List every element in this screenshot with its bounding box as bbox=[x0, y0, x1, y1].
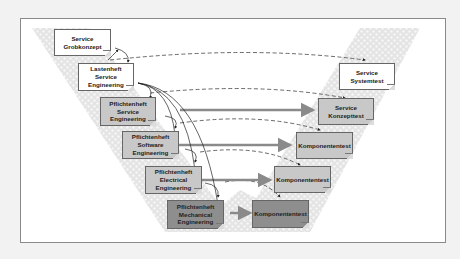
box-komponententest-mechanical: Komponententest bbox=[252, 200, 309, 228]
box-service-systemtest: ServiceSystemtest bbox=[339, 63, 395, 90]
box-komponententest-software: Komponententest bbox=[296, 132, 353, 159]
box-pflichtenheft-software-engineering: PflichtenheftSoftwareEngineering bbox=[122, 131, 179, 159]
box-komponententest-electrical: Komponententest bbox=[274, 166, 331, 193]
box-pflichtenheft-mechanical-engineering: PflichtenheftMechanicalEngineering bbox=[167, 200, 224, 229]
box-service-konzepttest: ServiceKonzepttest bbox=[318, 98, 374, 125]
box-lastenheft-service-engineering: LastenheftServiceEngineering bbox=[78, 63, 134, 91]
box-pflichtenheft-service-engineering: PflichtenheftServiceEngineering bbox=[100, 97, 156, 126]
box-pflichtenheft-electrical-engineering: PflichtenheftElectricalEngineering bbox=[145, 166, 202, 194]
box-service-grobkonzept: ServiceGrobkonzept bbox=[54, 29, 111, 56]
